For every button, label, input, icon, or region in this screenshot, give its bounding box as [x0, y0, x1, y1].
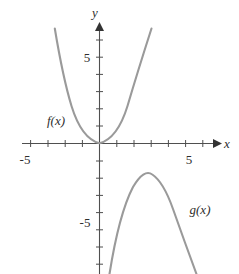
x-tick-label-5: 5 [186, 152, 193, 167]
curve-label-f-of-x: f(x) [47, 113, 65, 128]
y-axis-arrow-icon [95, 22, 104, 31]
x-tick-label-neg5: -5 [20, 152, 31, 167]
curve-label-g-of-x: g(x) [190, 202, 211, 217]
x-axis-arrow-icon [213, 139, 222, 148]
x-axis-label: x [223, 136, 230, 151]
y-axis-label: y [90, 5, 98, 20]
y-tick-label-5: 5 [84, 50, 91, 65]
parabola-graph-figure: y x -5 5 5 -5 f(x) g(x) [0, 0, 239, 274]
graph-canvas: y x -5 5 5 -5 f(x) g(x) [0, 0, 239, 274]
y-tick-label-neg5: -5 [80, 215, 91, 230]
curve-f-of-x [55, 29, 152, 144]
curve-g-of-x [110, 173, 197, 274]
axes-group [22, 22, 222, 274]
